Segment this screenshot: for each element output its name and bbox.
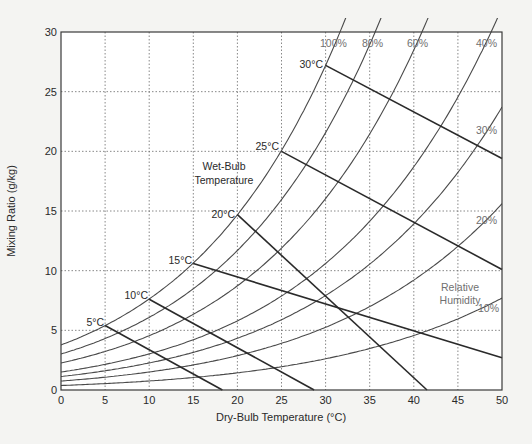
- x-tick-label: 45: [452, 394, 464, 406]
- wet-bulb-annotation-line2: Temperature: [195, 174, 254, 186]
- x-tick-label: 0: [58, 394, 64, 406]
- wb-label-20: 20°C: [212, 208, 236, 220]
- rh-label-10: 10%: [478, 302, 499, 314]
- y-tick-label: 30: [45, 26, 57, 38]
- psychrometric-chart: 05101520253035404550 051015202530 Dry-Bu…: [0, 0, 532, 444]
- x-tick-label: 20: [231, 394, 243, 406]
- x-tick-label: 30: [319, 394, 331, 406]
- relative-humidity-annotation-line2: Humidity: [440, 294, 482, 306]
- rh-label-40: 40%: [476, 37, 497, 49]
- x-tick-label: 25: [275, 394, 287, 406]
- x-tick-label: 35: [364, 394, 376, 406]
- x-tick-label: 15: [187, 394, 199, 406]
- y-tick-label: 5: [51, 324, 57, 336]
- x-tick-label: 50: [496, 394, 508, 406]
- x-axis-label: Dry-Bulb Temperature (°C): [216, 411, 346, 423]
- x-tick-label: 40: [408, 394, 420, 406]
- x-tick-label: 10: [143, 394, 155, 406]
- x-axis-ticks: 05101520253035404550: [58, 394, 508, 406]
- rh-label-60: 60%: [407, 37, 428, 49]
- relative-humidity-annotation-line1: Relative: [441, 281, 479, 293]
- y-tick-label: 0: [51, 384, 57, 396]
- rh-label-80: 80%: [362, 37, 383, 49]
- x-tick-label: 5: [102, 394, 108, 406]
- wb-label-5: 5°C: [86, 316, 104, 328]
- y-tick-label: 25: [45, 86, 57, 98]
- wb-label-15: 15°C: [169, 254, 193, 266]
- wet-bulb-annotation-line1: Wet-Bulb: [203, 160, 246, 172]
- y-axis-label: Mixing Ratio (g/kg): [5, 165, 17, 257]
- rh-label-20: 20%: [476, 214, 497, 226]
- y-tick-label: 20: [45, 145, 57, 157]
- rh-label-30: 30%: [476, 124, 497, 136]
- y-tick-label: 15: [45, 205, 57, 217]
- y-axis-ticks: 051015202530: [45, 26, 57, 396]
- wb-label-30: 30°C: [300, 58, 324, 70]
- wb-label-10: 10°C: [125, 289, 149, 301]
- rh-label-100: 100%: [320, 37, 347, 49]
- wb-label-25: 25°C: [256, 140, 280, 152]
- y-tick-label: 10: [45, 265, 57, 277]
